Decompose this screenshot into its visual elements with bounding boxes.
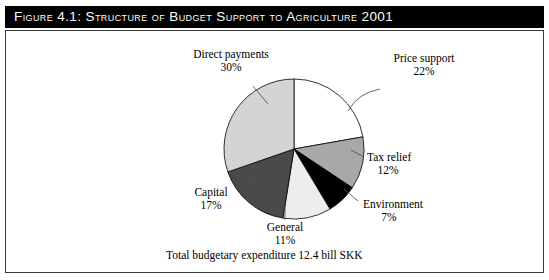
- pie-slice-group: [224, 79, 364, 219]
- slice-label-tax-relief: Tax relief: [367, 151, 411, 163]
- slice-label-direct-payments: Direct payments: [193, 48, 269, 61]
- slice-value-general: 11%: [275, 234, 296, 246]
- chart-footnote: Total budgetary expenditure 12.4 bill SK…: [166, 249, 363, 262]
- slice-value-tax-relief: 12%: [377, 164, 399, 176]
- slice-label-environment: Environment: [363, 198, 424, 210]
- slice-value-capital: 17%: [200, 199, 222, 211]
- slice-value-direct-payments: 30%: [220, 61, 242, 73]
- slice-label-general: General: [267, 221, 303, 233]
- figure-container: Figure 4.1: Structure of Budget Support …: [0, 0, 549, 280]
- leader-line-price-support: [348, 89, 380, 111]
- pie-chart: Direct payments 30% Price support 22% Ta…: [6, 31, 543, 272]
- slice-value-environment: 7%: [381, 211, 397, 223]
- slice-label-price-support: Price support: [393, 52, 455, 65]
- slice-value-price-support: 22%: [413, 65, 435, 77]
- slice-label-capital: Capital: [194, 186, 227, 199]
- chart-frame: Direct payments 30% Price support 22% Ta…: [5, 30, 544, 273]
- figure-title-bar: Figure 4.1: Structure of Budget Support …: [5, 6, 544, 28]
- page-title: Figure 4.1: Structure of Budget Support …: [14, 10, 393, 24]
